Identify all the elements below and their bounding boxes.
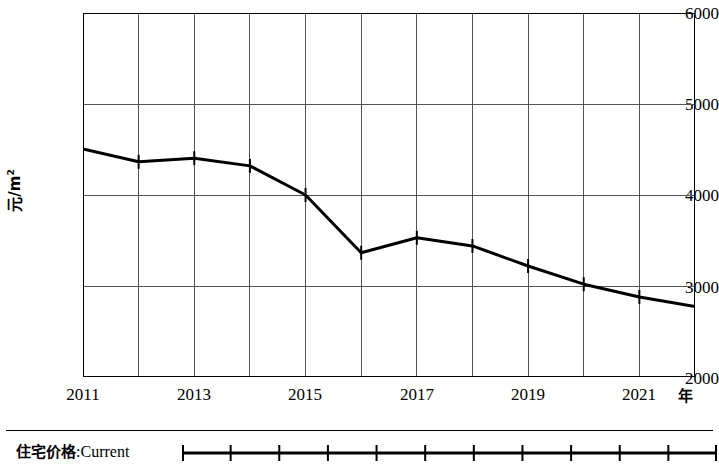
horizontal-gridlines: [83, 104, 695, 286]
legend-entry-label: 住宅价格:Current: [16, 444, 129, 460]
legend-divider: [6, 430, 713, 431]
series-line-residential-price: [83, 149, 695, 306]
x-axis-unit-label: 年: [678, 389, 693, 404]
y-axis-title-exponent: 2: [6, 169, 16, 175]
x-tick-label-2019: 2019: [498, 386, 558, 403]
chart-svg: [83, 13, 695, 377]
x-tick-label-2017: 2017: [387, 386, 447, 403]
legend-sample-svg: [182, 436, 717, 462]
x-tick-label-2015: 2015: [275, 386, 335, 403]
y-axis-title-base: 元/m: [6, 176, 24, 212]
chart-legend: 住宅价格:Current: [0, 430, 719, 468]
legend-label-en: Current: [80, 443, 129, 460]
plot-area: [83, 13, 695, 377]
x-tick-label-2013: 2013: [164, 386, 224, 403]
legend-label-cn: 住宅价格: [16, 443, 76, 461]
chart-figure: 元/m2 6000 5000 4000 3000 2000: [0, 0, 719, 468]
y-axis-title: 元/m2: [3, 146, 24, 236]
legend-line-sample: [182, 436, 717, 462]
x-tick-label-2011: 2011: [53, 386, 113, 403]
x-tick-label-2021: 2021: [609, 386, 669, 403]
